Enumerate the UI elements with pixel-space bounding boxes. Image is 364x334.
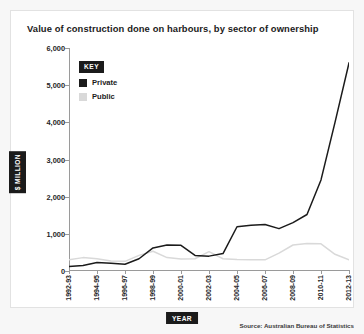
x-tick-label: 2004-05 xyxy=(233,275,240,301)
x-tick-mark xyxy=(97,271,98,274)
x-tick-mark xyxy=(293,271,294,274)
x-axis-ticks: 1992-931994-951996-971998-992000-012002-… xyxy=(69,271,350,317)
chart-card: Value of construction done on harbours, … xyxy=(10,10,354,308)
x-tick-label: 1994-95 xyxy=(93,275,100,301)
y-tick-label: 6,000 xyxy=(19,44,65,53)
y-tick-label: 1,000 xyxy=(19,230,65,239)
x-tick-mark xyxy=(321,271,322,274)
x-tick-mark xyxy=(349,271,350,274)
x-tick-mark xyxy=(237,271,238,274)
series-line-public xyxy=(69,244,349,262)
x-tick-label: 2002-03 xyxy=(205,275,212,301)
x-tick-label: 2000-01 xyxy=(177,275,184,301)
x-tick-mark xyxy=(69,271,70,274)
x-tick-mark xyxy=(209,271,210,274)
y-tick-label: 3,000 xyxy=(19,156,65,165)
x-tick-label: 2010-11 xyxy=(317,275,324,300)
x-tick-mark xyxy=(181,271,182,274)
y-tick-label: 0 xyxy=(19,267,65,276)
x-tick-label: 2012-13 xyxy=(345,275,352,301)
x-tick-label: 2008-09 xyxy=(289,275,296,301)
legend-label-private: Private xyxy=(92,78,117,87)
legend-key-badge: KEY xyxy=(79,61,104,73)
x-tick-label: 1998-99 xyxy=(149,275,156,301)
y-tick-label: 5,000 xyxy=(19,81,65,90)
source-note: Source: Australian Bureau of Statistics xyxy=(0,322,354,329)
x-tick-label: 1996-97 xyxy=(121,275,128,301)
y-axis-ticks: 01,0002,0003,0004,0005,0006,000 xyxy=(11,48,65,271)
legend-swatch-public xyxy=(79,93,87,101)
legend-item-private: Private xyxy=(79,78,117,87)
page-title: Value of construction done on harbours, … xyxy=(27,23,343,35)
y-tick-label: 4,000 xyxy=(19,118,65,127)
legend-swatch-private xyxy=(79,79,87,87)
legend-label-public: Public xyxy=(92,92,115,101)
x-tick-mark xyxy=(265,271,266,274)
x-tick-label: 2006-07 xyxy=(261,275,268,301)
y-tick-label: 2,000 xyxy=(19,193,65,202)
legend: KEY Private Public xyxy=(79,55,117,101)
x-tick-mark xyxy=(125,271,126,274)
legend-item-public: Public xyxy=(79,92,117,101)
x-tick-label: 1992-93 xyxy=(65,275,72,301)
screenshot-root: Value of construction done on harbours, … xyxy=(0,0,364,334)
x-tick-mark xyxy=(153,271,154,274)
